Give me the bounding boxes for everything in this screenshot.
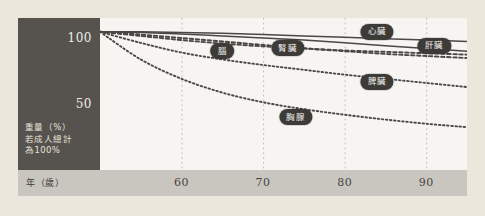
organ-weight-decline-figure: 100 50 重量（%） 若成人總計 為100% 心臟肝臟腎臟腦脾臟胸腺 年（歲…	[0, 0, 485, 216]
curve-label-肝臟: 肝臟	[418, 38, 451, 54]
x-axis-tick-60: 60	[174, 176, 189, 189]
y-axis-tick-100: 100	[68, 31, 92, 45]
curve-label-脾臟: 脾臟	[361, 74, 394, 90]
chart-block: 100 50 重量（%） 若成人總計 為100% 心臟肝臟腎臟腦脾臟胸腺 年（歲…	[18, 18, 467, 196]
curve-label-胸腺: 胸腺	[279, 109, 312, 125]
plot-area: 心臟肝臟腎臟腦脾臟胸腺	[100, 18, 467, 170]
x-axis-tick-70: 70	[256, 176, 271, 189]
figure-frame: 100 50 重量（%） 若成人總計 為100% 心臟肝臟腎臟腦脾臟胸腺 年（歲…	[0, 0, 485, 216]
y-axis-caption-line-1: 重量（%）	[25, 122, 101, 134]
y-axis-caption-line-2: 若成人總計	[25, 134, 101, 146]
curve-label-腎臟: 腎臟	[271, 40, 304, 56]
x-axis-strip: 年（歲） 60708090	[18, 170, 467, 196]
curve-label-心臟: 心臟	[361, 24, 394, 40]
y-axis-tick-50: 50	[76, 97, 92, 111]
y-axis-caption: 重量（%） 若成人總計 為100%	[25, 122, 101, 157]
curve-label-腦: 腦	[211, 43, 235, 59]
x-axis-tick-90: 90	[419, 176, 434, 189]
x-axis-caption: 年（歲）	[26, 176, 64, 189]
x-axis-tick-80: 80	[337, 176, 352, 189]
y-axis-caption-line-3: 為100%	[25, 145, 101, 157]
y-axis-panel: 100 50 重量（%） 若成人總計 為100%	[18, 18, 100, 170]
